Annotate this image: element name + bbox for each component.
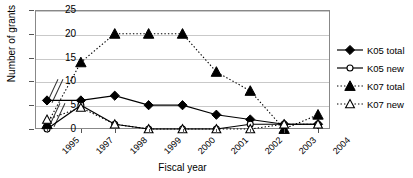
legend-item-k05-new[interactable]: K05 new xyxy=(336,59,413,77)
data-point-filled-triangle xyxy=(313,110,323,120)
legend-item-k07-total[interactable]: K07 total xyxy=(336,77,413,95)
data-point-filled-diamond xyxy=(110,91,119,100)
legend-label: K05 new xyxy=(367,63,404,74)
x-tick xyxy=(183,129,184,133)
y-tick-label: 15 xyxy=(52,53,76,63)
data-point-open-triangle xyxy=(43,115,52,123)
x-tick xyxy=(250,129,251,133)
data-point-open-triangle xyxy=(346,100,355,108)
data-point-filled-triangle xyxy=(76,57,86,67)
legend-label: K07 total xyxy=(367,81,405,92)
y-tick-label: 5 xyxy=(52,100,76,110)
x-tick xyxy=(81,129,82,133)
legend-marker-open-circle-icon xyxy=(336,61,364,75)
y-tick-label: 10 xyxy=(52,76,76,86)
legend-label: K05 total xyxy=(367,45,405,56)
y-tick-label: 0 xyxy=(52,124,76,134)
y-tick xyxy=(29,34,34,35)
data-point-filled-triangle xyxy=(110,29,120,39)
y-tick xyxy=(29,58,34,59)
y-tick xyxy=(29,10,34,11)
x-tick xyxy=(216,129,217,133)
y-tick-label: 20 xyxy=(52,29,76,39)
chart-legend: K05 totalK05 newK07 totalK07 new xyxy=(336,41,413,113)
x-tick xyxy=(47,129,48,133)
x-tick xyxy=(318,129,319,133)
x-tick xyxy=(149,129,150,133)
legend-marker-open-triangle-icon xyxy=(336,97,364,111)
x-axis-title: Fiscal year xyxy=(35,162,330,173)
data-point-filled-triangle xyxy=(143,29,153,39)
y-tick-label: 25 xyxy=(52,5,76,15)
y-tick xyxy=(29,81,34,82)
data-point-filled-diamond xyxy=(178,101,187,110)
data-point-filled-diamond xyxy=(212,110,221,119)
data-point-filled-diamond xyxy=(345,45,354,54)
legend-item-k07-new[interactable]: K07 new xyxy=(336,95,413,113)
y-tick xyxy=(29,129,34,130)
data-point-filled-diamond xyxy=(144,101,153,110)
data-point-open-circle xyxy=(347,65,353,71)
series-line xyxy=(47,34,318,129)
data-point-filled-triangle xyxy=(345,81,355,91)
legend-marker-filled-diamond-icon xyxy=(336,43,364,57)
y-tick xyxy=(29,105,34,106)
data-point-filled-triangle xyxy=(245,86,255,96)
legend-label: K07 new xyxy=(367,99,404,110)
x-tick xyxy=(115,129,116,133)
data-point-filled-diamond xyxy=(42,96,51,105)
x-tick xyxy=(284,129,285,133)
series-k07-total xyxy=(42,29,323,134)
chart-figure: Research 1995-2004 Number of grants Fisc… xyxy=(0,0,413,178)
legend-item-k05-total[interactable]: K05 total xyxy=(336,41,413,59)
legend-marker-filled-triangle-icon xyxy=(336,79,364,93)
